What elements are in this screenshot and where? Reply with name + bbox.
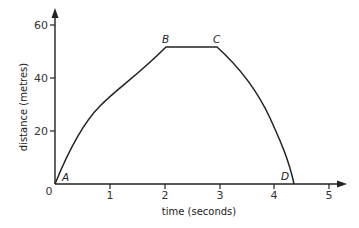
x-tick-label-3: 3: [217, 189, 224, 202]
x-tick-label-5: 5: [326, 189, 333, 202]
y-ticks: [50, 25, 55, 131]
x-axis-label: time (seconds): [162, 206, 237, 217]
point-label-d: D: [281, 170, 289, 182]
distance-time-graph: 60 40 20 0 1 2 3 4 5 time (seconds) dist…: [0, 0, 359, 228]
y-axis-arrow-icon: [52, 8, 59, 18]
y-tick-label-20: 20: [34, 125, 48, 138]
x-tick-label-2: 2: [162, 189, 169, 202]
point-label-a: A: [61, 171, 69, 183]
point-label-b: B: [162, 33, 169, 45]
distance-curve: [55, 47, 294, 184]
y-axis-label: distance (metres): [18, 63, 29, 152]
x-axis-arrow-icon: [337, 181, 347, 188]
point-label-c: C: [213, 33, 221, 45]
x-tick-label-1: 1: [107, 189, 114, 202]
x-tick-label-4: 4: [271, 189, 278, 202]
origin-label: 0: [46, 185, 53, 198]
y-tick-label-60: 60: [34, 19, 48, 32]
y-tick-label-40: 40: [34, 72, 48, 85]
